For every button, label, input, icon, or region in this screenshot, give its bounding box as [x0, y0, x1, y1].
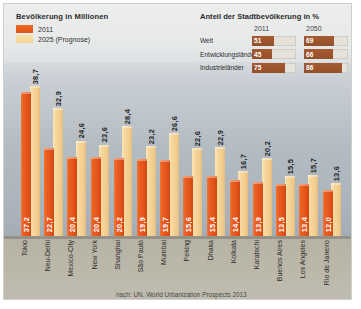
bar-group: 24,620,4 — [67, 64, 87, 236]
bar-group: 15,713,4 — [299, 64, 319, 236]
bar-highlight — [207, 176, 217, 178]
share-bar-2011: 45 — [252, 49, 296, 59]
bar-value-2011: 37,2 — [22, 217, 31, 232]
share-bar-value: 45 — [254, 49, 261, 59]
bar-highlight — [160, 160, 170, 162]
category-label-text: Mexico-City — [67, 240, 74, 277]
category-label-text: Kolkata — [230, 240, 237, 263]
legend-swatch-2025 — [16, 35, 33, 43]
legend-label-2025: 2025 (Prognose) — [38, 36, 90, 43]
share-row-label: Entwicklungsländer — [200, 51, 252, 58]
share-table-title: Anteil der Stadtbevölkerung in % — [200, 12, 348, 21]
bar-value-2025: 13,6 — [332, 166, 341, 181]
category-label: Shanghai — [114, 240, 134, 296]
bar-highlight — [331, 183, 341, 185]
legend-title: Bevölkerung in Millionen — [16, 12, 108, 21]
bar-value-2011: 20,4 — [68, 217, 77, 232]
bar-group: 22,915,4 — [207, 64, 227, 236]
bar-value-2011: 15,4 — [208, 217, 217, 232]
bar-highlight — [122, 126, 132, 128]
bar-highlight — [30, 86, 40, 88]
legend-item-2011: 2011 — [16, 25, 108, 33]
bar-value-2011: 14,4 — [231, 217, 240, 232]
share-bar-value: 51 — [254, 36, 261, 46]
bar-2025 — [76, 141, 86, 236]
bar-highlight — [183, 176, 193, 178]
bar-2011: 20,2 — [114, 158, 124, 236]
bar-group: 32,922,7 — [44, 64, 64, 236]
bar-2011: 22,7 — [44, 148, 54, 236]
category-label-text: Peking — [183, 240, 190, 261]
bar-value-2011: 13,9 — [254, 217, 263, 232]
bar-highlight — [215, 147, 225, 149]
chart-panel: Bevölkerung in Millionen 2011 2025 (Prog… — [3, 3, 352, 300]
bar-value-2025: 32,9 — [54, 91, 63, 106]
share-bar-2050: 69 — [304, 36, 348, 46]
bar-value-2025: 20,2 — [263, 141, 272, 156]
bar-highlight — [262, 158, 272, 160]
bar-highlight — [91, 157, 101, 159]
category-label-text: Mumbai — [160, 240, 167, 265]
bar-highlight — [253, 182, 263, 184]
bar-highlight — [299, 184, 309, 186]
share-bar-2011: 51 — [252, 36, 296, 46]
category-axis: TokioNeu-DelhiMexico-CityNew YorkShangha… — [12, 240, 342, 298]
legend-label-2011: 2011 — [38, 26, 53, 33]
bar-highlight — [146, 146, 156, 148]
share-col-2011: 2011 — [252, 25, 296, 32]
bar-value-2011: 19,7 — [161, 217, 170, 232]
bar-2025 — [262, 158, 272, 236]
baseline — [4, 236, 351, 239]
bar-2011: 13,5 — [276, 184, 286, 236]
category-label-text: Los Angeles — [299, 240, 306, 278]
category-label: São Paulo — [137, 240, 157, 296]
bar-2011: 15,4 — [207, 176, 217, 236]
bar-2011: 13,9 — [253, 182, 263, 236]
category-label: Peking — [183, 240, 203, 296]
bar-value-2025: 28,4 — [123, 109, 132, 124]
legend-swatch-2011 — [16, 25, 33, 33]
bar-2011: 37,2 — [21, 92, 31, 236]
category-label: New York — [91, 240, 111, 296]
category-label: Dhaka — [207, 240, 227, 296]
category-label: Mexico-City — [67, 240, 87, 296]
bar-highlight — [44, 148, 54, 150]
bar-group: 38,737,2 — [21, 64, 41, 236]
category-label-text: Tokio — [21, 240, 28, 256]
bar-2011: 19,9 — [137, 159, 147, 236]
bar-2025 — [169, 133, 179, 236]
bar-value-2025: 26,6 — [170, 116, 179, 131]
bar-group: 26,619,7 — [160, 64, 180, 236]
bar-highlight — [192, 148, 202, 150]
bar-highlight — [53, 108, 63, 110]
category-label: Buenos Aires — [276, 240, 296, 296]
bar-2025 — [53, 108, 63, 236]
category-label-text: Rio de Janeiro — [323, 240, 330, 285]
share-col-2050: 2050 — [304, 25, 348, 32]
bar-value-2011: 19,9 — [138, 217, 147, 232]
bar-2025 — [285, 176, 295, 236]
bar-value-2011: 12,0 — [324, 217, 333, 232]
bar-value-2025: 22,6 — [193, 131, 202, 146]
bar-group: 22,615,6 — [183, 64, 203, 236]
bar-value-2025: 15,7 — [309, 158, 318, 173]
category-label-text: New York — [91, 240, 98, 270]
category-label: Mumbai — [160, 240, 180, 296]
share-row-label: Welt — [200, 37, 252, 44]
bar-value-2025: 23,6 — [100, 127, 109, 142]
bar-chart: 38,737,232,922,724,620,423,620,428,420,2… — [12, 64, 342, 236]
bar-value-2011: 20,2 — [115, 217, 124, 232]
bar-highlight — [21, 92, 31, 94]
bar-value-2025: 38,7 — [31, 69, 40, 84]
legend-item-2025: 2025 (Prognose) — [16, 35, 108, 43]
category-label-text: Karatschi — [253, 240, 260, 269]
share-table-row: Welt5169 — [200, 36, 348, 46]
category-label-text: São Paulo — [137, 240, 144, 272]
bar-value-2011: 15,6 — [184, 217, 193, 232]
bar-group: 23,620,4 — [91, 64, 111, 236]
bar-2011: 12,0 — [323, 190, 333, 237]
bar-highlight — [323, 190, 333, 192]
bar-value-2025: 24,6 — [77, 123, 86, 138]
bar-highlight — [285, 176, 295, 178]
bar-value-2011: 22,7 — [45, 217, 54, 232]
